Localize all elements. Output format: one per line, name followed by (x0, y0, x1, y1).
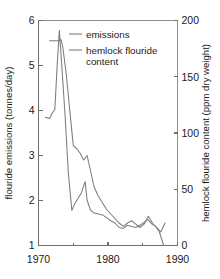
left-axis-ticks: 123456 (29, 14, 43, 251)
legend-label-hemlock-line2: content (86, 56, 118, 67)
left-tick-label: 2 (29, 194, 35, 206)
chart-container: 123456 050100150200 197019801990 flourid… (0, 0, 220, 279)
left-tick-label: 6 (29, 14, 35, 26)
legend-label-hemlock-line1: hemlock flouride (86, 45, 158, 56)
legend-label-emissions: emissions (86, 29, 130, 40)
y-axis-title: flouride emissions (tonnes/day) (3, 67, 14, 200)
bottom-tick-label: 1990 (166, 253, 190, 265)
chart-legend: emissions hemlock flouride content (69, 29, 158, 67)
left-tick-label: 4 (29, 104, 35, 116)
left-tick-label: 5 (29, 59, 35, 71)
right-tick-label: 100 (182, 127, 200, 139)
bottom-tick-label: 1980 (96, 253, 120, 265)
right-tick-label: 0 (182, 239, 188, 251)
y2-axis-title: hemlock flouride content (ppm dry weight… (200, 44, 211, 222)
right-tick-label: 200 (182, 14, 200, 26)
bottom-tick-label: 1970 (27, 253, 51, 265)
right-tick-label: 50 (182, 183, 194, 195)
left-tick-label: 1 (29, 239, 35, 251)
line-chart: 123456 050100150200 197019801990 flourid… (0, 0, 220, 279)
right-tick-label: 150 (182, 71, 200, 83)
series-line-hemlock-flouride-content (50, 40, 165, 232)
left-tick-label: 3 (29, 149, 35, 161)
